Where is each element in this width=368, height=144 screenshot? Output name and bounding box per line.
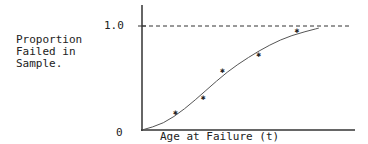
star-marker: ✱ xyxy=(173,108,178,117)
star-marker: ✱ xyxy=(201,93,206,102)
plot-area: ✱✱✱✱✱ xyxy=(0,0,368,144)
star-marker: ✱ xyxy=(220,66,225,75)
star-marker: ✱ xyxy=(294,26,299,35)
star-marker: ✱ xyxy=(256,50,261,59)
fitted-curve xyxy=(142,28,319,130)
